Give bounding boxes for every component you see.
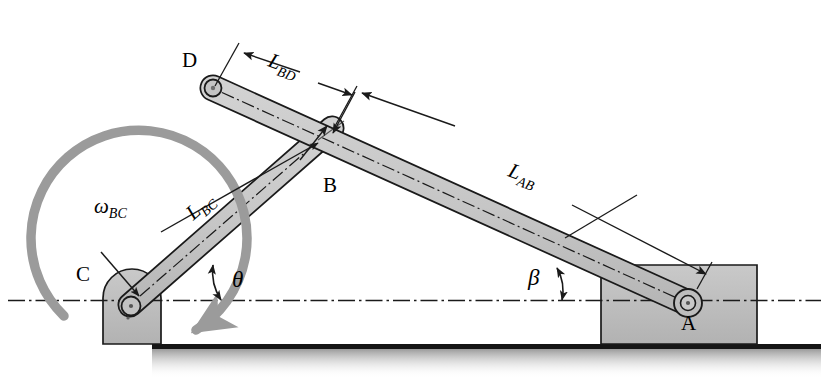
pin-joint-d bbox=[205, 80, 222, 97]
mechanism-diagram-svg bbox=[0, 0, 829, 377]
link-bc bbox=[130, 128, 332, 305]
angle-beta bbox=[557, 268, 563, 300]
link-da bbox=[213, 88, 688, 303]
angle-theta bbox=[213, 265, 221, 300]
figure-canvas: D B C A LBD LAB LBC ωBC θ β bbox=[0, 0, 829, 377]
point-label-b: B bbox=[323, 175, 337, 196]
angle-label-theta: θ bbox=[232, 268, 243, 291]
point-label-a: A bbox=[681, 313, 696, 334]
angle-label-beta: β bbox=[528, 266, 539, 289]
point-label-d: D bbox=[182, 50, 197, 71]
omega-sub: BC bbox=[109, 206, 127, 221]
point-label-c: C bbox=[76, 264, 90, 285]
omega-bc-label: ωBC bbox=[94, 196, 127, 221]
ground bbox=[152, 347, 821, 377]
omega-symbol: ω bbox=[94, 194, 109, 218]
